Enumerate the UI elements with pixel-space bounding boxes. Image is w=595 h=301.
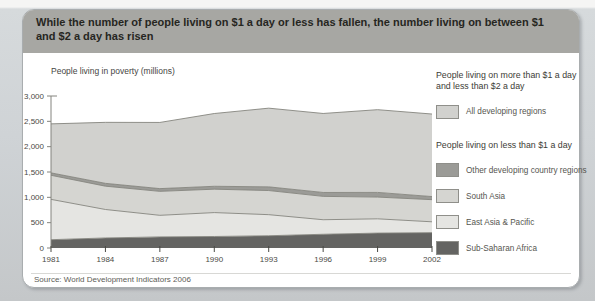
x-tick-label: 1981 [42, 255, 60, 264]
legend-item-south-asia: South Asia [436, 189, 582, 203]
figure-card: While the number of people living on $1 … [22, 9, 580, 288]
legend-label: All developing regions [466, 107, 546, 116]
y-tick-label: 1,000 [24, 193, 45, 202]
footer-divider [31, 273, 571, 274]
legend-item-all-developing-regions: All developing regions [436, 105, 582, 119]
y-tick-label: 3,000 [24, 92, 45, 101]
y-tick-label: 500 [31, 218, 45, 227]
x-tick-label: 1984 [97, 255, 115, 264]
legend-swatch-east-asia-pacific [436, 215, 459, 229]
legend-swatch-other-developing-country-regions [436, 163, 459, 177]
legend-heading: People living on more than $1 a day and … [436, 70, 582, 93]
legend-item-east-asia-pacific: East Asia & Pacific [436, 215, 582, 229]
legend-swatch-south-asia [436, 189, 459, 203]
legend-swatch-sub-saharan-africa [436, 241, 459, 255]
y-tick-label: 2,500 [24, 117, 45, 126]
x-tick-label: 1999 [369, 255, 387, 264]
x-tick-label: 2002 [423, 255, 441, 264]
y-tick-label: 2,000 [24, 142, 45, 151]
legend-label: Other developing country regions [466, 166, 587, 175]
source-note: Source: World Development Indicators 200… [34, 275, 191, 284]
x-tick-label: 1987 [151, 255, 169, 264]
legend-section: People living on less than $1 a dayOther… [436, 140, 582, 255]
legend-section: People living on more than $1 a day and … [436, 70, 582, 119]
y-tick-label: 0 [40, 244, 45, 253]
x-tick-label: 1993 [260, 255, 278, 264]
legend-label: Sub-Saharan Africa [466, 244, 537, 253]
legend-swatch-all-developing-regions [436, 105, 459, 119]
legend-item-other-developing-country-regions: Other developing country regions [436, 163, 582, 177]
y-tick-label: 1,500 [24, 168, 45, 177]
chart-legend: People living on more than $1 a day and … [436, 70, 582, 255]
x-tick-label: 1996 [314, 255, 332, 264]
x-tick-label: 1990 [205, 255, 223, 264]
legend-label: South Asia [466, 192, 505, 201]
legend-heading: People living on less than $1 a day [436, 140, 582, 151]
legend-item-sub-saharan-africa: Sub-Saharan Africa [436, 241, 582, 255]
legend-label: East Asia & Pacific [466, 218, 534, 227]
